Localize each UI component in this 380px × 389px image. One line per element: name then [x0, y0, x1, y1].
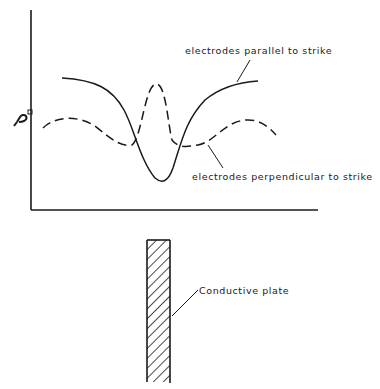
- conductive-plate: [147, 240, 170, 383]
- curve-perpendicular-to-strike: [43, 84, 276, 146]
- leader-line-plate: [172, 290, 198, 316]
- curve-parallel-to-strike: [62, 78, 258, 181]
- leader-line-perpendicular: [208, 145, 223, 168]
- label-parallel: electrodes parallel to strike: [185, 45, 332, 56]
- label-conductive-plate: Conductive plate: [199, 285, 289, 296]
- y-axis-label-rho-a: [14, 110, 32, 126]
- leader-line-parallel: [237, 60, 250, 82]
- label-perpendicular: electrodes perpendicular to strike: [192, 171, 373, 182]
- diagram-canvas: electrodes parallel to strike electrodes…: [0, 0, 380, 389]
